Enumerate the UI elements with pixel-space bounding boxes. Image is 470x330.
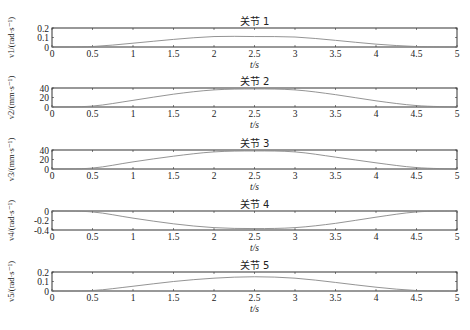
x-tick-label: 3.5 bbox=[330, 293, 342, 303]
axes-box bbox=[52, 272, 457, 291]
x-tick-label: 4 bbox=[374, 171, 379, 181]
x-tick-label: 0 bbox=[50, 49, 55, 59]
x-tick-label: 2.5 bbox=[249, 109, 261, 119]
x-tick-label: 4.5 bbox=[411, 232, 423, 242]
joint-velocity-figure: 关节 100.511.522.533.544.5500.10.2t/sv1/(r… bbox=[0, 0, 470, 330]
x-tick-label: 4.5 bbox=[411, 109, 423, 119]
x-tick-label: 0.5 bbox=[87, 109, 99, 119]
y-tick-label: 0.1 bbox=[37, 277, 49, 287]
subplot-joint-3: 关节 300.511.522.533.544.5502040t/sv3/(mm·… bbox=[6, 137, 460, 192]
x-axis-label: t/s bbox=[250, 182, 259, 192]
y-axis-label: v5/(rad·s⁻¹) bbox=[6, 261, 16, 302]
x-tick-label: 1 bbox=[131, 293, 136, 303]
x-tick-label: 1.5 bbox=[168, 49, 180, 59]
x-tick-label: 1 bbox=[131, 171, 136, 181]
y-axis-label: v4/(rad·s⁻¹) bbox=[6, 200, 16, 241]
y-tick-label: 40 bbox=[40, 84, 50, 94]
x-tick-label: 0.5 bbox=[87, 171, 99, 181]
x-tick-label: 1 bbox=[131, 232, 136, 242]
y-axis-label: v2/(mm·s⁻¹) bbox=[6, 76, 16, 120]
x-tick-label: 4.5 bbox=[411, 293, 423, 303]
x-tick-label: 2.5 bbox=[249, 293, 261, 303]
x-tick-label: 1.5 bbox=[168, 171, 180, 181]
x-tick-label: 1.5 bbox=[168, 232, 180, 242]
x-tick-label: 4 bbox=[374, 232, 379, 242]
y-tick-label: 0.2 bbox=[37, 24, 49, 34]
axes-box bbox=[52, 28, 457, 47]
x-tick-label: 4 bbox=[374, 49, 379, 59]
y-tick-label: 0.2 bbox=[37, 268, 49, 278]
x-tick-label: 1 bbox=[131, 109, 136, 119]
x-tick-label: 5 bbox=[455, 232, 460, 242]
subplot-title: 关节 2 bbox=[240, 75, 270, 87]
subplot-joint-4: 关节 400.511.522.533.544.55-0.4-0.20t/sv4/… bbox=[6, 198, 460, 253]
y-tick-label: 0 bbox=[44, 207, 49, 217]
x-tick-label: 0.5 bbox=[87, 49, 99, 59]
x-tick-label: 0 bbox=[50, 232, 55, 242]
x-tick-label: 3 bbox=[293, 49, 298, 59]
x-tick-label: 3 bbox=[293, 171, 298, 181]
velocity-curve bbox=[52, 211, 457, 229]
y-axis-label: v3/(mm·s⁻¹) bbox=[6, 138, 16, 182]
x-tick-label: 5 bbox=[455, 49, 460, 59]
subplot-title: 关节 5 bbox=[240, 259, 270, 271]
y-tick-label: 40 bbox=[40, 146, 50, 156]
y-tick-label: 0 bbox=[44, 103, 49, 113]
x-tick-label: 3.5 bbox=[330, 232, 342, 242]
y-tick-label: 0.1 bbox=[37, 33, 49, 43]
x-tick-label: 2 bbox=[212, 232, 217, 242]
axes-box bbox=[52, 150, 457, 169]
y-tick-label: 20 bbox=[40, 93, 50, 103]
x-axis-label: t/s bbox=[250, 60, 259, 70]
x-tick-label: 0 bbox=[50, 109, 55, 119]
velocity-curve bbox=[52, 89, 457, 107]
subplot-joint-2: 关节 200.511.522.533.544.5502040t/sv2/(mm·… bbox=[6, 75, 460, 130]
x-tick-label: 3 bbox=[293, 232, 298, 242]
axes-box bbox=[52, 88, 457, 107]
x-tick-label: 3.5 bbox=[330, 49, 342, 59]
x-tick-label: 0.5 bbox=[87, 232, 99, 242]
subplot-title: 关节 4 bbox=[240, 198, 270, 210]
x-tick-label: 0 bbox=[50, 171, 55, 181]
x-tick-label: 3.5 bbox=[330, 109, 342, 119]
x-tick-label: 5 bbox=[455, 109, 460, 119]
x-tick-label: 4 bbox=[374, 293, 379, 303]
x-tick-label: 1.5 bbox=[168, 109, 180, 119]
y-tick-label: -0.2 bbox=[34, 216, 49, 226]
x-tick-label: 1 bbox=[131, 49, 136, 59]
y-axis-label: v1/(rad·s⁻¹) bbox=[6, 17, 16, 58]
subplot-title: 关节 3 bbox=[240, 137, 270, 149]
x-tick-label: 2.5 bbox=[249, 171, 261, 181]
y-tick-label: -0.4 bbox=[34, 226, 49, 236]
x-tick-label: 2 bbox=[212, 171, 217, 181]
x-tick-label: 0 bbox=[50, 293, 55, 303]
x-tick-label: 3.5 bbox=[330, 171, 342, 181]
subplot-joint-1: 关节 100.511.522.533.544.5500.10.2t/sv1/(r… bbox=[6, 15, 460, 70]
x-tick-label: 2.5 bbox=[249, 49, 261, 59]
subplot-joint-5: 关节 500.511.522.533.544.5500.10.2t/sv5/(r… bbox=[6, 259, 460, 314]
velocity-curve bbox=[52, 277, 457, 291]
x-tick-label: 0.5 bbox=[87, 293, 99, 303]
x-tick-label: 5 bbox=[455, 171, 460, 181]
subplot-title: 关节 1 bbox=[240, 15, 270, 27]
y-tick-label: 0 bbox=[44, 287, 49, 297]
x-tick-label: 3 bbox=[293, 109, 298, 119]
x-tick-label: 1.5 bbox=[168, 293, 180, 303]
x-tick-label: 5 bbox=[455, 293, 460, 303]
y-tick-label: 20 bbox=[40, 155, 50, 165]
x-axis-label: t/s bbox=[250, 304, 259, 314]
y-tick-label: 0 bbox=[44, 43, 49, 53]
y-tick-label: 0 bbox=[44, 165, 49, 175]
x-tick-label: 4.5 bbox=[411, 171, 423, 181]
x-tick-label: 4.5 bbox=[411, 49, 423, 59]
velocity-curve bbox=[52, 151, 457, 169]
x-tick-label: 4 bbox=[374, 109, 379, 119]
x-tick-label: 3 bbox=[293, 293, 298, 303]
x-tick-label: 2 bbox=[212, 293, 217, 303]
x-tick-label: 2.5 bbox=[249, 232, 261, 242]
x-tick-label: 2 bbox=[212, 49, 217, 59]
x-axis-label: t/s bbox=[250, 120, 259, 130]
x-tick-label: 2 bbox=[212, 109, 217, 119]
x-axis-label: t/s bbox=[250, 243, 259, 253]
